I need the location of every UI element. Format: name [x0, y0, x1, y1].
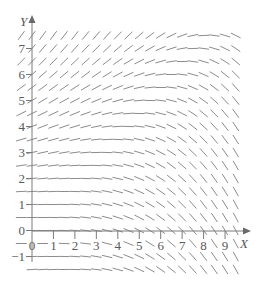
slope-segment: [81, 125, 91, 128]
x-axis-arrow-icon: [243, 228, 251, 235]
slope-segment: [17, 85, 25, 91]
slope-segment: [167, 33, 176, 37]
slope-segment: [212, 239, 218, 247]
slope-segment: [50, 71, 58, 77]
slope-segment: [135, 32, 143, 38]
slope-segment: [168, 266, 176, 272]
slope-segment: [156, 33, 165, 38]
slope-segment: [38, 269, 48, 270]
slope-segment: [124, 203, 133, 207]
y-tick-label: −1: [11, 249, 25, 264]
slope-segment: [211, 110, 218, 117]
slope-segment: [59, 125, 68, 128]
slope-segment: [145, 113, 155, 114]
slope-segment: [59, 152, 69, 154]
slope-segment: [190, 201, 197, 209]
slope-segment: [201, 188, 207, 196]
slope-segment: [220, 34, 230, 37]
slope-segment: [72, 45, 79, 52]
slope-segment: [145, 73, 155, 75]
slope-segment: [167, 47, 177, 50]
slope-segment: [125, 32, 132, 39]
slope-segment: [233, 213, 238, 222]
slope-segment: [210, 47, 220, 50]
slope-segment: [199, 85, 208, 90]
y-tick-label: 2: [19, 171, 26, 186]
slope-segment: [92, 72, 100, 78]
slope-segment: [233, 252, 238, 261]
slope-segment: [232, 71, 239, 78]
slope-segment: [81, 204, 91, 205]
slope-segment: [124, 152, 134, 154]
slope-segment: [39, 85, 47, 91]
slope-segment: [135, 73, 144, 76]
slope-segment: [91, 126, 101, 128]
slope-segment: [113, 177, 123, 179]
slope-segment: [222, 110, 228, 118]
slope-field-figure: 0123456789 −101234567 Y X: [0, 0, 267, 291]
slope-segment: [91, 269, 101, 270]
slope-segment: [146, 267, 155, 272]
slope-segment: [50, 31, 56, 39]
slope-segment: [103, 72, 111, 77]
slope-segment: [91, 191, 101, 192]
y-tick-label: 4: [19, 119, 26, 134]
x-tick-label: 4: [115, 238, 122, 253]
slope-segment: [91, 139, 101, 140]
slope-segment: [92, 85, 101, 90]
slope-segment: [210, 84, 218, 90]
slope-segment: [113, 165, 123, 167]
x-tick-label: 8: [200, 238, 207, 253]
slope-segment: [221, 59, 229, 64]
x-tick-label: 5: [136, 238, 143, 253]
slope-segment: [200, 149, 207, 156]
slope-segment: [113, 268, 123, 271]
slope-segment: [201, 214, 207, 222]
slope-segment: [222, 252, 227, 261]
slope-segment: [233, 265, 238, 274]
slope-segment: [156, 46, 165, 50]
slope-segment: [82, 45, 89, 52]
slope-segment: [50, 58, 57, 65]
slope-segment: [48, 165, 58, 166]
slope-segment: [167, 99, 177, 102]
slope-segment: [231, 33, 240, 37]
slope-segment: [146, 33, 154, 39]
slope-segment: [38, 138, 48, 141]
slope-segment: [50, 45, 57, 53]
slope-segment: [233, 109, 239, 117]
slope-segment: [190, 253, 197, 261]
slope-segment: [222, 148, 228, 156]
slope-segment: [60, 71, 68, 77]
slope-segment: [124, 242, 133, 246]
x-tick-label: 6: [157, 238, 164, 253]
slope-segment: [222, 97, 229, 104]
slope-segment: [91, 256, 101, 258]
slope-segment: [124, 190, 133, 193]
slope-segment: [59, 165, 69, 166]
slope-segment: [40, 31, 46, 39]
slope-segment: [81, 217, 91, 218]
slope-segment: [60, 85, 68, 91]
slope-segment: [222, 200, 227, 209]
slope-segment: [188, 86, 197, 90]
slope-segment: [60, 98, 69, 103]
slope-segment: [81, 85, 90, 90]
slope-segment: [82, 72, 90, 78]
slope-segment: [102, 255, 112, 257]
slope-segment: [49, 152, 59, 154]
slope-segment: [38, 98, 47, 103]
slope-segment: [38, 125, 47, 129]
slope-segment: [124, 216, 133, 220]
slope-segment: [49, 98, 58, 103]
slope-segment: [92, 99, 101, 103]
slope-segment: [179, 188, 186, 195]
slope-segment: [102, 178, 112, 180]
slope-segment: [167, 175, 175, 181]
slope-segment: [177, 86, 187, 89]
slope-segment: [188, 35, 198, 37]
slope-segment: [168, 201, 176, 207]
slope-segment: [113, 190, 123, 193]
slope-segment: [233, 200, 238, 209]
slope-segment: [232, 84, 239, 91]
